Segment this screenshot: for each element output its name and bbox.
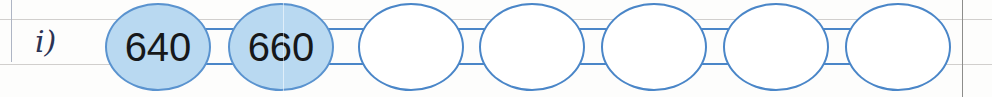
scan-seam-artifact: [283, 0, 284, 97]
sequence-cell-2[interactable]: 660: [228, 3, 334, 91]
sequence-cell-6[interactable]: [723, 3, 829, 91]
worksheet-page: i) 640 660: [0, 0, 992, 97]
sequence-cell-7[interactable]: [845, 3, 951, 91]
sequence-cell-1[interactable]: 640: [105, 3, 211, 91]
sequence-cell-4[interactable]: [479, 3, 585, 91]
sequence-cell-value: 660: [248, 27, 315, 67]
number-sequence-chain: 640 660: [0, 0, 992, 97]
sequence-cell-5[interactable]: [601, 3, 707, 91]
sequence-cell-value: 640: [125, 27, 192, 67]
sequence-cell-3[interactable]: [358, 3, 464, 91]
